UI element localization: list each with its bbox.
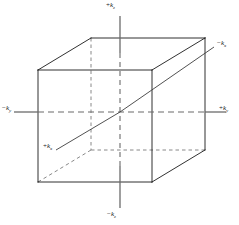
axis-label-ky-positive-subscript: y <box>226 108 228 113</box>
axis-label-kz-negative: −kz <box>107 211 116 219</box>
axis-label-kx-negative: −kx <box>217 40 226 48</box>
axis-label-kx-negative-subscript: x <box>224 43 226 48</box>
axis-label-kz-negative-subscript: z <box>114 214 116 219</box>
hidden-edge-bottom-left-oblique <box>38 150 91 182</box>
kx-axis-lower-left-segment <box>56 112 120 150</box>
cube-edge-bottom-right-oblique <box>152 150 205 182</box>
hidden-edges-group <box>38 38 205 182</box>
diagram-canvas <box>0 0 239 225</box>
cube-edges-group <box>38 38 205 182</box>
k-space-cube-figure: +kz −kz −ky +ky −kx +kx <box>0 0 239 225</box>
axis-label-kx-positive: +kx <box>43 143 52 151</box>
axis-label-ky-positive: +ky <box>219 105 228 113</box>
axis-label-ky-negative-subscript: y <box>9 108 11 113</box>
cube-edge-top-right-oblique <box>152 38 205 70</box>
kx-axis-upper-right-segment <box>120 47 214 112</box>
cube-edge-top-left-oblique <box>38 38 91 70</box>
axis-label-kx-positive-subscript: x <box>50 146 52 151</box>
axis-label-kz-positive: +kz <box>106 2 115 10</box>
axis-label-kz-positive-subscript: z <box>113 5 115 10</box>
kx-axis-group <box>56 47 214 150</box>
axis-label-ky-negative: −ky <box>2 105 11 113</box>
